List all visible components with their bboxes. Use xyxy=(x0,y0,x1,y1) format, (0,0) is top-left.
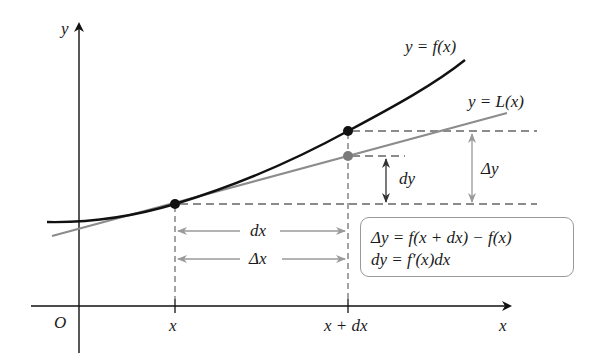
delta-x-label: Δx xyxy=(249,250,267,267)
x-axis-label: x xyxy=(499,317,507,334)
f-curve-label: y = f(x) xyxy=(405,38,456,55)
diagram-canvas xyxy=(0,0,604,363)
formula-box: Δy = f(x + dx) − f(x) dy = f′(x)dx xyxy=(360,217,574,277)
origin-label: O xyxy=(54,314,66,331)
point-L-x-dx xyxy=(343,151,353,161)
y-axis-label: y xyxy=(61,20,69,37)
dy-label: dy xyxy=(399,170,415,187)
delta-y-label: Δy xyxy=(481,160,499,177)
formula-delta-y: Δy = f(x + dx) − f(x) xyxy=(371,229,512,246)
x-dx-tick-label: x + dx xyxy=(324,317,368,334)
point-x-fx xyxy=(170,199,180,209)
dx-label: dx xyxy=(250,222,266,239)
x-tick-label: x xyxy=(169,317,177,334)
formula-dy: dy = f′(x)dx xyxy=(371,251,450,268)
L-line-label: y = L(x) xyxy=(468,93,524,110)
point-f-x-dx xyxy=(343,126,353,136)
